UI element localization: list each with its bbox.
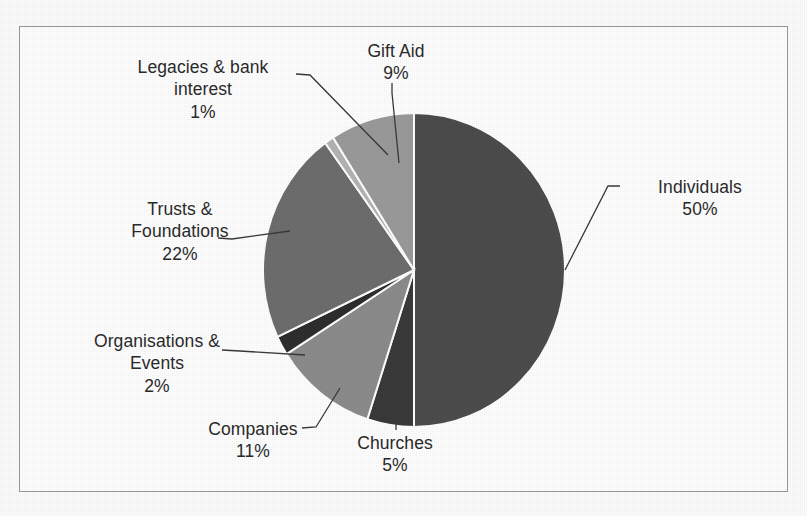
pie-label-legacies-bank-interest: Legacies & bank interest 1% — [108, 56, 298, 123]
pie-label-organisations-pct: 2% — [62, 375, 252, 397]
pie-label-legacies-name-line1: Legacies & bank — [108, 56, 298, 78]
pie-label-companies-pct: 11% — [178, 440, 328, 462]
pie-label-individuals: Individuals 50% — [620, 176, 780, 221]
pie-label-trusts-foundations: Trusts & Foundations 22% — [95, 198, 265, 265]
leader-line-individuals — [565, 186, 620, 270]
pie-label-legacies-name-line2: interest — [108, 78, 298, 100]
pie-label-giftaid-name: Gift Aid — [326, 40, 466, 62]
pie-label-churches-name: Churches — [330, 432, 460, 454]
pie-label-companies: Companies 11% — [178, 418, 328, 463]
pie-label-trusts-pct: 22% — [95, 243, 265, 265]
pie-label-giftaid-pct: 9% — [326, 62, 466, 84]
pie-label-churches: Churches 5% — [330, 432, 460, 477]
pie-label-legacies-pct: 1% — [108, 101, 298, 123]
pie-label-churches-pct: 5% — [330, 454, 460, 476]
pie-label-gift-aid: Gift Aid 9% — [326, 40, 466, 85]
pie-label-trusts-name-line1: Trusts & — [95, 198, 265, 220]
pie-slice-individuals — [414, 113, 565, 427]
pie-label-companies-name: Companies — [178, 418, 328, 440]
pie-chart-figure: Individuals 50% Churches 5% Companies 11… — [0, 0, 807, 516]
pie-label-trusts-name-line2: Foundations — [95, 220, 265, 242]
pie-label-individuals-name: Individuals — [620, 176, 780, 198]
pie-slices-group — [263, 113, 565, 427]
pie-label-organisations-name-line2: Events — [62, 352, 252, 374]
pie-label-organisations-events: Organisations & Events 2% — [62, 330, 252, 397]
pie-label-organisations-name-line1: Organisations & — [62, 330, 252, 352]
pie-label-individuals-pct: 50% — [620, 198, 780, 220]
